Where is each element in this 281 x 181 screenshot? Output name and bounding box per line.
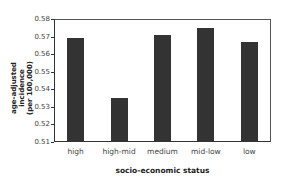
y-tick-label: 0.57	[22, 33, 50, 41]
bar-high-mid	[111, 98, 128, 142]
y-tick-label: 0.54	[22, 85, 50, 93]
y-tick-mark	[51, 142, 54, 143]
x-tick-label: high-mid	[98, 147, 141, 156]
y-tick-label: 0.51	[22, 138, 50, 146]
x-tick-label: low	[228, 147, 271, 156]
y-tick-label: 0.52	[22, 120, 50, 128]
bar-mid-low	[197, 28, 214, 142]
bar-high	[67, 38, 84, 142]
x-tick-label: mid-low	[184, 147, 227, 156]
y-tick-label: 0.58	[22, 15, 50, 23]
y-tick-label: 0.53	[22, 103, 50, 111]
x-axis-label: socio-economic status	[54, 166, 271, 175]
bar-low	[241, 42, 258, 142]
x-tick-label: medium	[141, 147, 184, 156]
x-tick-label: high	[54, 147, 97, 156]
y-tick-label: 0.56	[22, 50, 50, 58]
bar-medium	[154, 35, 171, 142]
y-tick-label: 0.55	[22, 68, 50, 76]
